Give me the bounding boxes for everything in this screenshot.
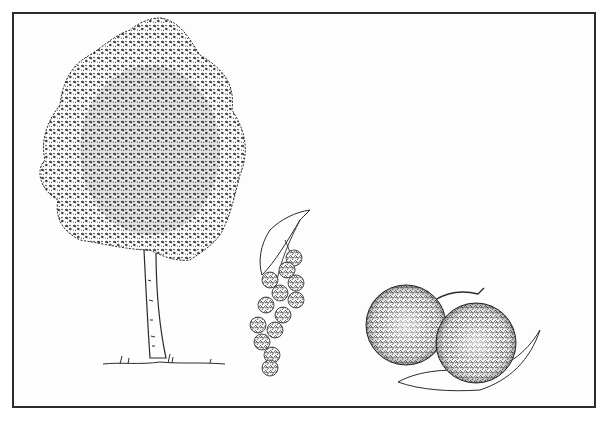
- fruit-stem: [435, 288, 484, 300]
- tree: [40, 18, 245, 364]
- fruit-cluster: [250, 210, 310, 376]
- cluster-fruit: [275, 307, 291, 323]
- fruit-pair: [366, 285, 540, 391]
- cluster-fruit: [288, 292, 304, 308]
- cluster-fruit: [267, 322, 283, 338]
- cluster-fruit: [262, 360, 278, 376]
- tree-trunk: [144, 250, 166, 358]
- cluster-fruit: [272, 285, 288, 301]
- cluster-fruit: [254, 334, 270, 350]
- cluster-fruit: [262, 272, 278, 288]
- botanical-illustration: [0, 0, 612, 424]
- cluster-fruit: [250, 317, 266, 333]
- cluster-fruit: [288, 275, 304, 291]
- cutoff-caption: [430, 416, 610, 424]
- cluster-fruit: [258, 297, 274, 313]
